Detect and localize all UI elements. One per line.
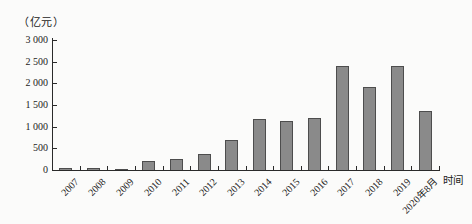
x-tick-mark bbox=[107, 166, 108, 171]
x-axis-title: 时间 bbox=[443, 172, 463, 187]
bar bbox=[225, 140, 238, 170]
y-axis-unit-label: （亿元） bbox=[18, 13, 64, 29]
bar-chart: （亿元） 05001 0001 5002 0002 5003 000 20072… bbox=[0, 0, 472, 224]
bar bbox=[87, 168, 100, 170]
y-tick-mark bbox=[53, 62, 57, 63]
x-tick-mark bbox=[273, 166, 274, 171]
bar bbox=[115, 169, 128, 170]
bar bbox=[142, 161, 155, 170]
y-tick-label: 2 000 bbox=[12, 78, 48, 88]
bar bbox=[308, 118, 321, 170]
x-tick-mark bbox=[135, 166, 136, 171]
x-tick-mark bbox=[80, 166, 81, 171]
x-tick-label: 2018 bbox=[363, 176, 385, 198]
x-tick-label: 2016 bbox=[307, 176, 329, 198]
x-tick-mark bbox=[163, 166, 164, 171]
x-tick-label: 2009 bbox=[114, 176, 136, 198]
y-tick-mark bbox=[53, 148, 57, 149]
x-tick-label: 2011 bbox=[170, 176, 192, 198]
bar bbox=[170, 159, 183, 170]
x-tick-mark bbox=[190, 166, 191, 171]
x-tick-label: 2012 bbox=[197, 176, 219, 198]
bar bbox=[280, 121, 293, 170]
y-tick-label: 500 bbox=[12, 143, 48, 153]
bar bbox=[59, 168, 72, 170]
x-tick-label: 2007 bbox=[59, 176, 81, 198]
x-tick-mark bbox=[246, 166, 247, 171]
x-tick-mark bbox=[356, 166, 357, 171]
y-tick-label: 3 000 bbox=[12, 35, 48, 45]
bar bbox=[336, 66, 349, 170]
y-tick-label: 0 bbox=[12, 165, 48, 175]
x-tick-mark bbox=[301, 166, 302, 171]
x-tick-label: 2019 bbox=[390, 176, 412, 198]
bar bbox=[419, 111, 432, 170]
x-tick-label: 2014 bbox=[252, 176, 274, 198]
bar bbox=[253, 119, 266, 170]
bar bbox=[391, 66, 404, 170]
x-tick-mark bbox=[218, 166, 219, 171]
y-tick-mark bbox=[53, 83, 57, 84]
x-tick-mark bbox=[328, 166, 329, 171]
x-tick-mark bbox=[439, 166, 440, 171]
x-tick-label: 2015 bbox=[280, 176, 302, 198]
y-tick-mark bbox=[53, 105, 57, 106]
x-tick-label: 2010 bbox=[142, 176, 164, 198]
y-axis-line bbox=[52, 38, 53, 170]
x-tick-label: 2017 bbox=[335, 176, 357, 198]
y-tick-label: 1 000 bbox=[12, 122, 48, 132]
y-tick-mark bbox=[53, 127, 57, 128]
y-tick-mark bbox=[53, 40, 57, 41]
bar bbox=[198, 154, 211, 170]
x-tick-mark bbox=[384, 166, 385, 171]
bar bbox=[363, 87, 376, 170]
x-tick-label: 2008 bbox=[86, 176, 108, 198]
x-tick-label: 2013 bbox=[225, 176, 247, 198]
y-tick-label: 2 500 bbox=[12, 57, 48, 67]
y-tick-label: 1 500 bbox=[12, 100, 48, 110]
x-tick-mark bbox=[411, 166, 412, 171]
